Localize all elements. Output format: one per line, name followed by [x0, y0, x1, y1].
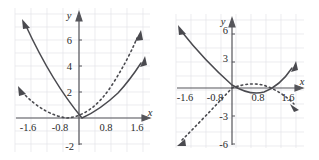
arrow-right-solid-start — [178, 25, 186, 35]
left-ytick-6: 6 — [67, 35, 72, 46]
left-ytick-2: 2 — [67, 87, 72, 98]
left-x-axis-label: x — [147, 107, 153, 118]
right-gridlines — [176, 14, 304, 148]
right-xtick-0-8: 0.8 — [251, 92, 264, 103]
right-ytick-6: 6 — [223, 25, 228, 36]
left-graph-panel: y x 6 4 2 -2 -1.6 -0.8 0.8 1.6 — [0, 0, 160, 160]
arrow-left-solid-start — [22, 19, 30, 29]
arrow-left-dashed-end — [135, 30, 143, 41]
left-ytick-neg2: -2 — [65, 141, 74, 152]
right-solid-curve — [178, 25, 298, 93]
left-xtick-neg1-6: -1.6 — [20, 122, 37, 133]
right-xtick-neg1-6: -1.6 — [177, 92, 194, 103]
right-x-axis-label: x — [299, 76, 305, 87]
left-xtick-0-8: 0.8 — [99, 122, 112, 133]
two-panel-graph-figure: y x 6 4 2 -2 -1.6 -0.8 0.8 1.6 — [0, 0, 319, 160]
left-xtick-1-6: 1.6 — [130, 122, 143, 133]
right-xtick-1-6: 1.6 — [281, 92, 294, 103]
right-ytick-neg6: -6 — [219, 139, 228, 150]
right-ytick-3: 3 — [223, 53, 228, 64]
left-xtick-neg0-8: -0.8 — [52, 122, 69, 133]
arrow-right-solid-end — [291, 61, 298, 72]
arrow-left-solid-end — [140, 56, 147, 67]
left-solid-parabola — [22, 19, 147, 118]
left-ytick-4: 4 — [67, 61, 73, 72]
left-y-axis-label: y — [66, 10, 72, 21]
right-xtick-neg0-8: -0.8 — [207, 92, 224, 103]
right-ytick-neg3: -3 — [219, 111, 228, 122]
arrow-left-dashed-start — [18, 86, 26, 96]
arrow-right-dashed-end — [290, 104, 299, 112]
right-graph-panel: y x 6 3 -3 -6 -1.6 -0.8 0.8 1.6 — [160, 0, 319, 160]
